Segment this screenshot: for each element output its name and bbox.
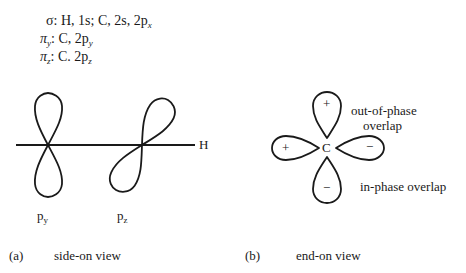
right-lobe-icon [336,136,384,160]
out-of-phase-label: out-of-phase [351,103,417,119]
caption-b-text: end-on view [296,248,361,264]
orbital-diagram [0,0,466,273]
caption-b-tag: (b) [245,248,260,264]
bottom-lobe-sign: − [323,180,330,196]
caption-a-text: side-on view [54,248,121,264]
overlap-label: overlap [363,118,402,134]
pz-label: pz [117,208,128,224]
carbon-label: C [322,140,331,156]
hydrogen-label: H [199,137,208,153]
caption-a-tag: (a) [9,248,23,264]
right-lobe-sign: − [366,139,373,155]
left-lobe-icon [272,136,319,160]
py-label: py [37,208,48,224]
left-lobe-sign: + [282,140,289,156]
top-lobe-sign: + [323,96,330,112]
in-phase-label: in-phase overlap [360,179,446,195]
